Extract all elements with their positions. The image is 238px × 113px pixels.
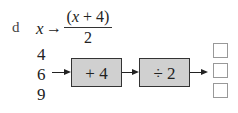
arrow-line bbox=[190, 72, 201, 73]
arrow-head-icon bbox=[201, 69, 208, 75]
input-value: 6 bbox=[37, 65, 46, 85]
mapping-variable: x bbox=[36, 19, 44, 39]
maps-to-arrow-icon: → bbox=[46, 19, 62, 37]
fraction-bar bbox=[64, 27, 112, 28]
fraction-denominator: 2 bbox=[64, 29, 112, 46]
answer-box[interactable] bbox=[213, 63, 228, 78]
fraction-numerator: (x + 4) bbox=[64, 8, 112, 26]
operation-box-add: + 4 bbox=[71, 58, 122, 87]
mapping-fraction: (x + 4) 2 bbox=[64, 8, 112, 46]
input-value: 4 bbox=[37, 45, 46, 65]
arrow-line bbox=[52, 72, 64, 73]
arrow-line bbox=[122, 72, 132, 73]
input-value: 9 bbox=[37, 85, 46, 105]
answer-box[interactable] bbox=[213, 43, 228, 58]
operation-box-divide: ÷ 2 bbox=[139, 58, 190, 87]
input-values: 4 6 9 bbox=[37, 45, 46, 105]
arrow-head-icon bbox=[64, 69, 71, 75]
arrow-head-icon bbox=[132, 69, 139, 75]
answer-box[interactable] bbox=[213, 83, 228, 98]
question-label: d bbox=[12, 19, 20, 36]
